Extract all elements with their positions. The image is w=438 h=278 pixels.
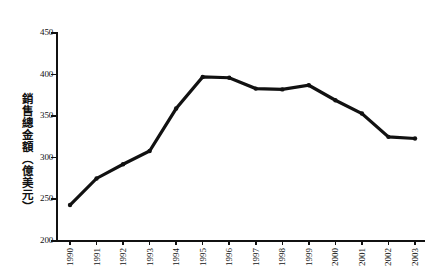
- series-layer: [56, 32, 425, 242]
- data-point: [94, 176, 98, 180]
- series-markers: [68, 75, 417, 208]
- x-tick-label: 1992: [118, 248, 128, 266]
- line-chart: 銷售總金額（億美元） 200250300350400450 1990199119…: [0, 0, 438, 278]
- x-tick-label: 1995: [198, 248, 208, 266]
- y-tick-label: 250: [40, 193, 53, 203]
- data-point: [280, 87, 284, 91]
- x-tick-label: 2001: [357, 248, 367, 266]
- data-point: [147, 149, 151, 153]
- data-point: [254, 86, 258, 90]
- data-point: [307, 83, 311, 87]
- plot-area: 200250300350400450 199019911992199319941…: [56, 32, 425, 242]
- series-line-sales: [70, 77, 415, 205]
- y-tick-label: 400: [40, 69, 53, 79]
- data-point: [413, 136, 417, 140]
- x-tick-label: 1990: [65, 248, 75, 266]
- x-tick-label: 1994: [171, 248, 181, 266]
- x-tick-label: 1999: [304, 248, 314, 266]
- x-tick-label: 2000: [330, 248, 340, 266]
- data-point: [386, 135, 390, 139]
- data-point: [360, 111, 364, 115]
- y-tick-label: 200: [40, 235, 53, 245]
- x-tick-label: 1998: [277, 248, 287, 266]
- data-point: [174, 106, 178, 110]
- x-tick-label: 1993: [145, 248, 155, 266]
- data-point: [200, 75, 204, 79]
- x-tick-label: 2002: [383, 248, 393, 266]
- x-tick-label: 2003: [410, 248, 420, 266]
- y-tick-label: 350: [40, 110, 53, 120]
- y-tick-label: 300: [40, 152, 53, 162]
- x-tick-label: 1991: [92, 248, 102, 266]
- x-tick-label: 1997: [251, 248, 261, 266]
- data-point: [121, 162, 125, 166]
- data-point: [333, 98, 337, 102]
- y-tick-label: 450: [40, 27, 53, 37]
- x-tick-label: 1996: [224, 248, 234, 266]
- data-point: [68, 203, 72, 207]
- data-point: [227, 76, 231, 80]
- y-axis-title: 銷售總金額（億美元）: [12, 78, 32, 228]
